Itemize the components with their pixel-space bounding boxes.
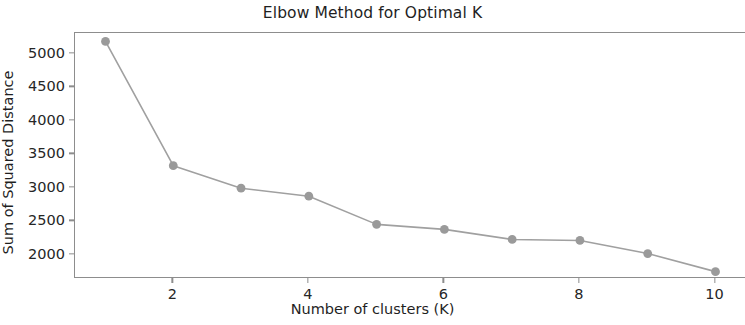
series-markers — [101, 37, 720, 276]
y-tick-label: 2500 — [28, 212, 65, 228]
x-tick-label: 8 — [574, 286, 583, 302]
data-point — [576, 236, 585, 245]
data-point — [237, 184, 246, 193]
chart-title: Elbow Method for Optimal K — [0, 4, 745, 22]
data-point — [508, 235, 517, 244]
y-tick-label: 5000 — [28, 45, 65, 61]
data-point — [304, 192, 313, 201]
x-tick-label: 4 — [303, 286, 312, 302]
y-tick-label: 4000 — [28, 112, 65, 128]
y-tick-label: 2000 — [28, 246, 65, 262]
data-point — [643, 249, 652, 258]
x-tick-label: 10 — [705, 286, 723, 302]
x-tick-label: 2 — [168, 286, 177, 302]
data-point — [372, 220, 381, 229]
y-tick-label: 3000 — [28, 179, 65, 195]
y-tick-label: 3500 — [28, 145, 65, 161]
chart-figure: Elbow Method for Optimal K 2000250030003… — [0, 0, 745, 325]
series-line — [106, 41, 716, 271]
y-axis-label: Sum of Squared Distance — [0, 0, 19, 325]
plot-area — [74, 32, 745, 278]
data-point — [440, 225, 449, 234]
line-series — [75, 33, 745, 279]
x-tick-label: 6 — [439, 286, 448, 302]
x-axis-label: Number of clusters (K) — [0, 301, 745, 317]
data-point — [711, 267, 720, 276]
data-point — [169, 161, 178, 170]
y-tick-label: 4500 — [28, 78, 65, 94]
data-point — [101, 37, 110, 46]
